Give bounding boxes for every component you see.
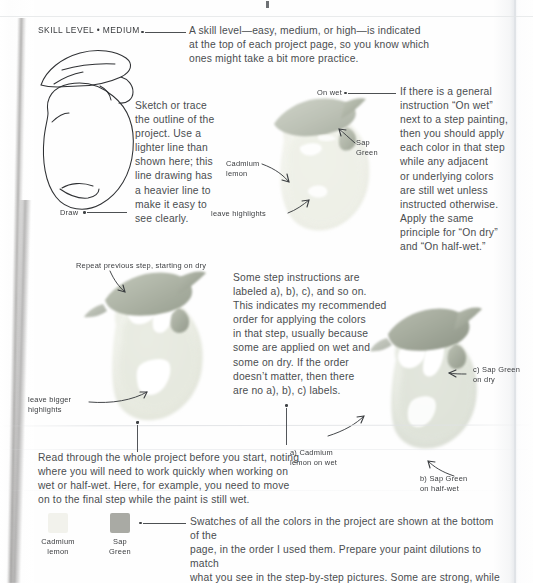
on-wet-label: On wet <box>317 88 342 98</box>
lemon-step2-painting <box>84 272 206 424</box>
scan-line-top <box>0 16 533 17</box>
page-gutter <box>0 0 34 583</box>
cadmium-lemon-label: Cadmium lemon <box>226 159 259 180</box>
skill-level-leader-line <box>145 32 186 33</box>
read-through-description: Read through the whole project before yo… <box>38 451 348 507</box>
swatch-leader-dot <box>139 522 142 525</box>
swatch-sap-green-label: Sap Green <box>98 537 142 558</box>
swatch-note-description: Swatches of all the colors in the projec… <box>190 515 500 583</box>
lemon-step1-painting <box>274 98 369 230</box>
draw-description: Sketch or trace the outline of the proje… <box>135 99 227 226</box>
on-wet-leader-dot <box>344 92 347 95</box>
skill-level-leader-dot <box>141 31 144 34</box>
leave-bigger-highlights-label: leave bigger highlights <box>28 395 71 416</box>
repeat-previous-step-label: Repeat previous step, starting on dry <box>76 261 206 271</box>
page-spine-shadow-lower <box>9 200 32 583</box>
page-top-mark <box>266 1 269 8</box>
draw-leader-line <box>87 212 127 213</box>
step-b-label: b) Sap Green on half-wet <box>420 474 467 495</box>
book-page: SKILL LEVEL • MEDIUM A skill level—easy,… <box>0 0 533 583</box>
sap-green-label: Sap Green <box>356 138 378 159</box>
draw-leader-dot <box>83 211 86 214</box>
skill-level-description: A skill level—easy, medium, or high—is i… <box>189 24 479 66</box>
read-through-leader-line <box>137 425 138 452</box>
draw-label: Draw <box>60 208 78 218</box>
step-c-label: c) Sap Green on dry <box>473 365 520 386</box>
swatch-leader-line <box>143 523 186 524</box>
swatch-cadmium-lemon <box>48 513 68 533</box>
step-labels-description: Some step instructions are labeled a), b… <box>233 271 413 398</box>
skill-level-label: SKILL LEVEL • MEDIUM <box>38 25 140 35</box>
on-wet-leader-line <box>348 93 396 94</box>
swatch-cadmium-lemon-label: Cadmium lemon <box>36 537 80 558</box>
read-through-leader-dot <box>136 421 139 424</box>
page-spine-shadow <box>7 18 27 583</box>
scan-line-mid2 <box>0 449 533 450</box>
step-labels-leader-dot <box>285 404 288 407</box>
swatch-sap-green <box>110 513 130 533</box>
leave-highlights-label: leave highlights <box>211 209 266 219</box>
on-wet-description: If there is a general instruction “On we… <box>400 85 522 254</box>
lemon-line-drawing <box>41 51 133 210</box>
step-labels-leader-line <box>286 408 287 445</box>
scan-line-mid <box>0 424 533 426</box>
